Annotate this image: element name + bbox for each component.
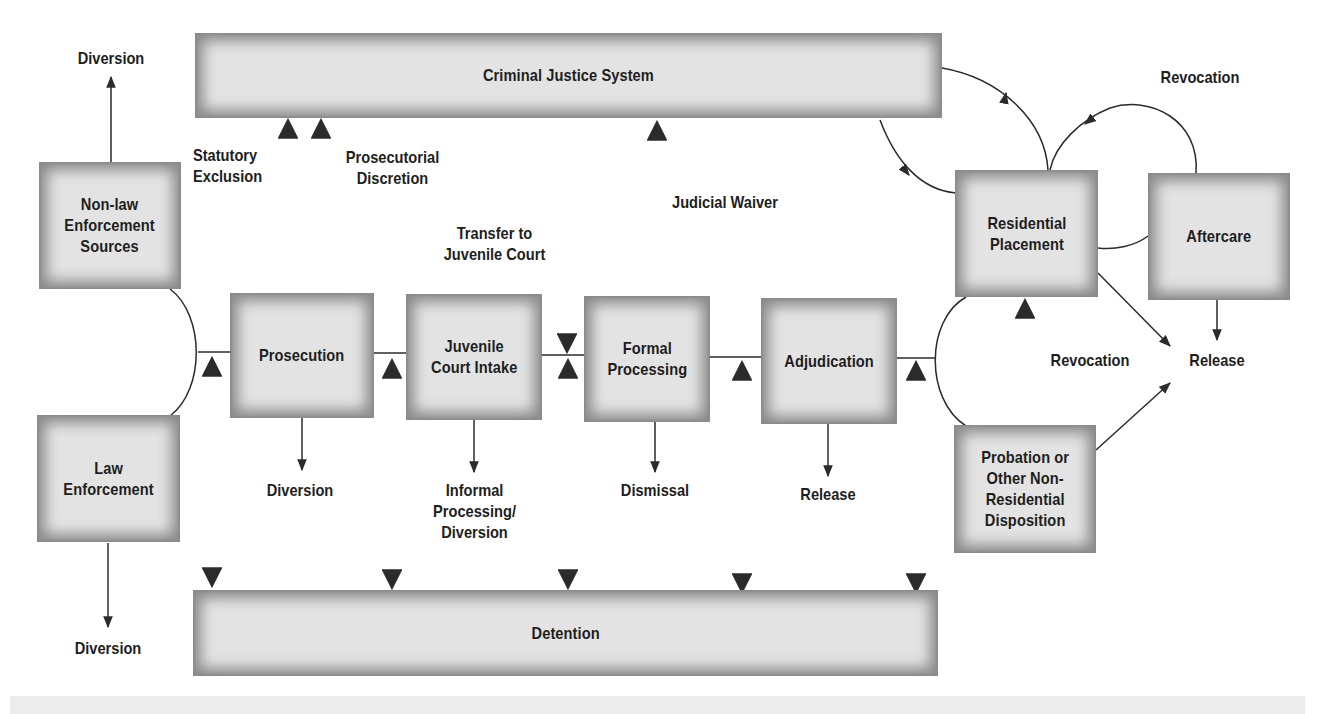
- residential-placement-label: Residential Placement: [987, 213, 1066, 255]
- probation-label: Probation or Other Non- Residential Disp…: [981, 447, 1069, 531]
- revocation-top-label: Revocation: [1157, 67, 1243, 88]
- prosecution-box: Prosecution: [230, 293, 374, 418]
- residential-placement-box: Residential Placement: [955, 170, 1098, 297]
- non-law-enforcement-label: Non-law Enforcement Sources: [65, 194, 155, 257]
- detention-label: Detention: [531, 623, 599, 644]
- prosecutorial-discretion-label: Prosecutorial Discretion: [339, 147, 447, 189]
- prosecution-label: Prosecution: [259, 345, 344, 366]
- prosecution-diversion-label: Diversion: [257, 480, 343, 501]
- formal-processing-box: Formal Processing: [584, 296, 710, 422]
- law-enforcement-box: Law Enforcement: [37, 415, 180, 542]
- criminal-justice-system-label: Criminal Justice System: [483, 65, 654, 86]
- juvenile-court-intake-label: Juvenile Court Intake: [431, 336, 517, 378]
- release-right-label: Release: [1174, 350, 1260, 371]
- aftercare-label: Aftercare: [1187, 226, 1252, 247]
- diversion-bottom-label: Diversion: [65, 638, 151, 659]
- law-enforcement-label: Law Enforcement: [63, 458, 153, 500]
- adjudication-box: Adjudication: [761, 298, 897, 424]
- aftercare-box: Aftercare: [1148, 173, 1290, 300]
- detention-bar: Detention: [193, 590, 938, 676]
- probation-box: Probation or Other Non- Residential Disp…: [954, 425, 1096, 553]
- diversion-top-label: Diversion: [68, 48, 154, 69]
- adjudication-label: Adjudication: [784, 351, 874, 372]
- formal-processing-label: Formal Processing: [607, 338, 687, 380]
- judicial-waiver-label: Judicial Waiver: [672, 192, 792, 213]
- non-law-enforcement-box: Non-law Enforcement Sources: [39, 162, 181, 289]
- informal-processing-label: Informal Processing/ Diversion: [429, 480, 519, 543]
- statutory-exclusion-label: Statutory Exclusion: [193, 145, 270, 187]
- transfer-to-juvenile-court-label: Transfer to Juvenile Court: [441, 223, 549, 265]
- criminal-justice-system-bar: Criminal Justice System: [195, 33, 942, 118]
- dismissal-label: Dismissal: [612, 480, 698, 501]
- juvenile-court-intake-box: Juvenile Court Intake: [406, 294, 542, 420]
- case-flow-diagram: Criminal Justice System Detention Non-la…: [0, 0, 1327, 714]
- adjudication-release-label: Release: [785, 484, 871, 505]
- revocation-middle-label: Revocation: [1047, 350, 1133, 371]
